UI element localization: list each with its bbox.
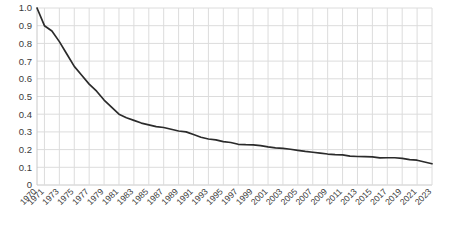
chart-canvas: 1.00.90.80.70.60.50.40.30.20.10 19701971… [0, 0, 449, 237]
line-chart: 1.00.90.80.70.60.50.40.30.20.10 19701971… [0, 0, 449, 237]
y-tick-label: 1.0 [19, 2, 32, 13]
y-tick-label: 0.2 [19, 144, 32, 155]
y-tick-label: 0.9 [19, 20, 32, 31]
y-axis-tick-labels: 1.00.90.80.70.60.50.40.30.20.10 [19, 2, 32, 190]
y-tick-label: 0.8 [19, 38, 32, 49]
y-tick-label: 0.4 [19, 109, 32, 120]
y-tick-label: 0.1 [19, 162, 32, 173]
y-tick-label: 0.7 [19, 56, 32, 67]
y-tick-label: 0.3 [19, 126, 32, 137]
y-tick-label: 0.6 [19, 73, 32, 84]
y-tick-label: 0.5 [19, 91, 32, 102]
